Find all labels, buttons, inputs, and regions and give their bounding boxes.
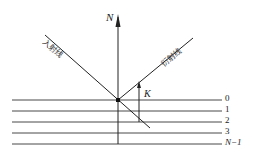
diffraction-diagram xyxy=(0,0,256,160)
normal-label: N xyxy=(106,11,113,23)
layer-label-3: 3 xyxy=(225,126,230,136)
normal-arrow-icon xyxy=(116,14,121,27)
layer-label-2: 2 xyxy=(225,115,230,125)
k-vector-label: K xyxy=(144,88,151,99)
atomic-layers xyxy=(12,100,222,144)
diffracted-ray-line xyxy=(118,38,193,100)
layer-label-0: 0 xyxy=(225,93,230,103)
layer-label-n-1: N−1 xyxy=(225,137,242,147)
scattering-point xyxy=(116,98,120,102)
layer-label-1: 1 xyxy=(225,104,230,114)
